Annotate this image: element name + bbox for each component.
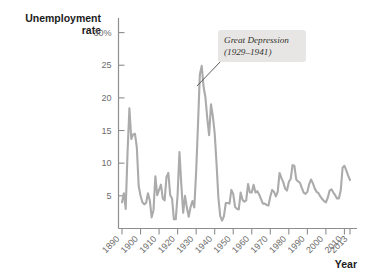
y-tick-label: 20 <box>101 93 111 103</box>
x-tick-label: 1950 <box>211 234 232 255</box>
x-tick-group: 1890190019101920193019401950196019701980… <box>100 229 350 256</box>
unemployment-rate-chart: Unemployment rate 30%252015105 189019001… <box>0 0 367 274</box>
x-tick-label: 1970 <box>248 234 269 255</box>
x-tick-label: 1990 <box>286 234 307 255</box>
x-tick-label: 1940 <box>193 234 214 255</box>
y-tick-group: 30%252015105 <box>93 28 124 201</box>
y-axis-title-line1: Unemployment <box>25 12 101 24</box>
x-tick-label: 1930 <box>174 234 195 255</box>
x-tick-label: 1910 <box>137 234 158 255</box>
y-tick-label: 15 <box>101 126 111 136</box>
unemployment-line-series <box>122 66 350 221</box>
y-tick-label: 30% <box>93 28 111 38</box>
annotation-line1: Great Depression <box>224 35 289 45</box>
y-tick-label: 5 <box>106 191 111 201</box>
annotation-line2: (1929–1941) <box>224 47 271 57</box>
y-tick-label: 25 <box>101 60 111 70</box>
x-tick-label: 2000 <box>304 234 325 255</box>
x-tick-label: 1920 <box>156 234 177 255</box>
chart-figure: Unemployment rate 30%252015105 189019001… <box>0 0 367 274</box>
x-tick-label: 1960 <box>230 234 251 255</box>
y-tick-label: 10 <box>101 158 111 168</box>
x-tick-label: 2013 <box>328 234 349 255</box>
x-tick-label: 1890 <box>100 234 121 255</box>
x-tick-label: 1980 <box>267 234 288 255</box>
x-tick-label: 1900 <box>119 234 140 255</box>
x-axis-title: Year <box>335 258 357 270</box>
